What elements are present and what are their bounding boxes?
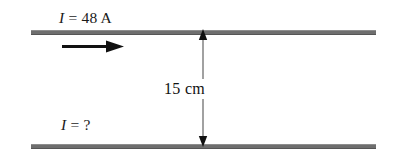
top-current-value: 48 A (81, 9, 112, 26)
bottom-current-value: ? (83, 116, 90, 133)
right-arrow-icon (62, 39, 124, 52)
bottom-wire-current-label: I = ? (61, 116, 91, 134)
top-wire-current-label: I = 48 A (59, 9, 112, 27)
physics-diagram-parallel-wires: I = 48 A I = ? 15 cm (0, 0, 393, 159)
bottom-current-equals: = (66, 116, 83, 133)
top-current-equals: = (64, 9, 81, 26)
separation-distance-label: 15 cm (161, 79, 208, 99)
